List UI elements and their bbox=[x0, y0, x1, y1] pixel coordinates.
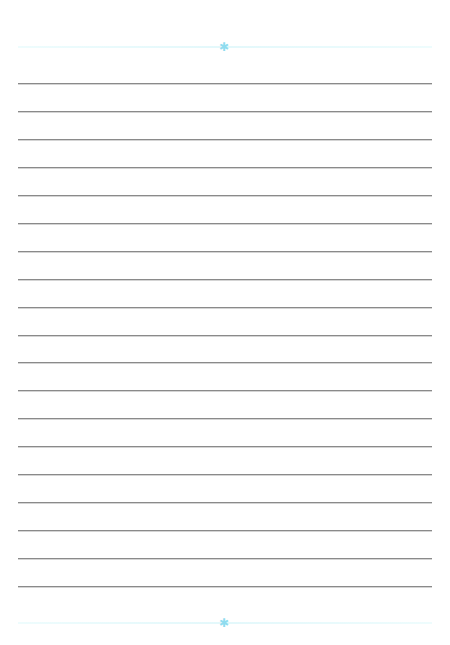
snowflake-icon: ✱ bbox=[218, 617, 230, 629]
ruled-line bbox=[18, 446, 432, 447]
ruled-line bbox=[18, 418, 432, 419]
ruled-line bbox=[18, 83, 432, 84]
ruled-line bbox=[18, 474, 432, 475]
ruled-line bbox=[18, 279, 432, 280]
ruled-line bbox=[18, 251, 432, 252]
ruled-line bbox=[18, 139, 432, 140]
ruled-line bbox=[18, 502, 432, 503]
ruled-line bbox=[18, 530, 432, 531]
ruled-line bbox=[18, 335, 432, 336]
ruled-line bbox=[18, 390, 432, 391]
snowflake-icon: ✱ bbox=[218, 41, 230, 53]
ruled-line bbox=[18, 586, 432, 587]
ruled-line bbox=[18, 111, 432, 112]
ruled-line bbox=[18, 307, 432, 308]
ruled-line bbox=[18, 558, 432, 559]
ruled-line bbox=[18, 223, 432, 224]
ruled-line bbox=[18, 362, 432, 363]
ruled-line bbox=[18, 195, 432, 196]
ruled-line bbox=[18, 167, 432, 168]
